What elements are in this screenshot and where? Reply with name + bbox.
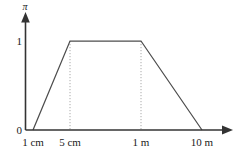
x-tick-label-5cm: 5 cm (59, 137, 81, 148)
x-axis (26, 125, 234, 134)
x-tick-label-1m: 1 m (133, 137, 150, 148)
x-tick-label-10m: 10 m (191, 137, 213, 148)
y-axis (21, 12, 30, 130)
y-axis-title: π (22, 2, 27, 12)
y-tick-label-0: 0 (17, 125, 23, 136)
guide-lines (70, 41, 141, 130)
y-axis-arrowhead (21, 12, 30, 23)
possibility-distribution-figure: π 1 0 1 cm 5 cm 1 m 10 m (0, 0, 244, 160)
x-tick-label-1cm: 1 cm (22, 137, 44, 148)
trapezoid-curve (33, 41, 202, 130)
y-tick-label-1: 1 (17, 36, 23, 47)
x-axis-arrowhead (222, 125, 233, 134)
